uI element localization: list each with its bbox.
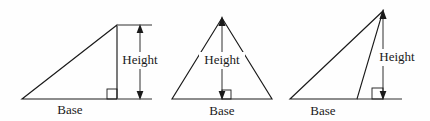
triangle-diagram-figure: Height Base Height Base Height Base <box>0 0 430 121</box>
obtuse-triangle-outline <box>290 11 383 99</box>
right-triangle-outline <box>22 25 117 99</box>
base-label: Base <box>57 102 83 117</box>
figure-canvas: Height Base Height Base Height Base <box>0 0 430 121</box>
right-triangle-panel: Height Base <box>22 24 162 117</box>
base-label: Base <box>209 103 235 118</box>
right-angle-marker <box>107 89 117 99</box>
acute-triangle-panel: Height Base <box>172 16 272 118</box>
base-label: Base <box>310 103 336 118</box>
height-label: Height <box>122 52 158 67</box>
height-label: Height <box>379 49 415 64</box>
obtuse-triangle-panel: Height Base <box>290 9 421 118</box>
height-label: Height <box>204 52 240 67</box>
